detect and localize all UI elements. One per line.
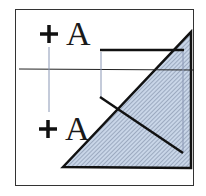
label-bottom-a: A bbox=[65, 110, 90, 147]
diagram-canvas: A A bbox=[0, 0, 206, 196]
hatched-triangle bbox=[63, 32, 191, 168]
label-top-a: A bbox=[66, 15, 91, 52]
plus-icon-top bbox=[40, 25, 58, 43]
plus-icon-bottom bbox=[39, 120, 57, 138]
